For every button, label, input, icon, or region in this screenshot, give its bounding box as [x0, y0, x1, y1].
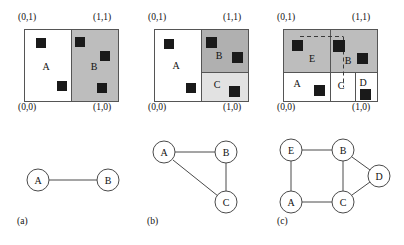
- coord-top-right-a: (1,1): [93, 12, 111, 22]
- region-label-c: C: [338, 80, 345, 91]
- unit-square-a: A B: [24, 29, 120, 103]
- region-label-a: A: [172, 60, 180, 71]
- graph-node-b-label: B: [223, 147, 230, 158]
- panel-caption-a: (a): [17, 216, 28, 226]
- data-point: [360, 89, 371, 100]
- region-label-b: B: [345, 55, 352, 66]
- coord-bottom-right-b: (1,0): [223, 102, 241, 112]
- region-label-b: B: [216, 50, 223, 61]
- unit-square-c: E B A C D: [283, 29, 379, 103]
- data-point: [186, 83, 196, 93]
- graph-edge-a-c: [173, 160, 218, 196]
- data-point: [314, 85, 325, 96]
- region-label-a: A: [42, 61, 50, 72]
- region-label-d: D: [359, 77, 366, 88]
- figure-root: (0,1) (1,1) (0,0) (1,0) A B A B (a) (: [0, 0, 404, 245]
- data-point: [232, 52, 243, 63]
- region-label-e: E: [309, 53, 315, 64]
- graph-node-a-label: A: [34, 175, 42, 186]
- coord-bottom-left-a: (0,0): [18, 102, 36, 112]
- data-point: [36, 38, 46, 48]
- data-point: [164, 39, 174, 49]
- graph-node-a-label: A: [160, 147, 168, 158]
- graph-node-b-label: B: [105, 175, 112, 186]
- panel-caption-c: (c): [277, 216, 288, 226]
- data-point: [97, 83, 107, 93]
- data-point: [57, 81, 67, 91]
- coord-top-left-b: (0,1): [148, 12, 166, 22]
- graph-b: A B C: [140, 136, 270, 216]
- coord-top-right-c: (1,1): [352, 12, 370, 22]
- data-point: [229, 86, 240, 97]
- region-label-a: A: [293, 78, 301, 89]
- panel-caption-b: (b): [147, 216, 158, 226]
- data-point: [357, 53, 368, 64]
- coord-bottom-left-c: (0,0): [277, 102, 295, 112]
- region-label-c: C: [214, 79, 221, 90]
- graph-node-c-label: C: [223, 197, 230, 208]
- graph-node-e-label: E: [288, 145, 294, 156]
- region-label-b: B: [91, 61, 98, 72]
- data-point: [333, 40, 345, 52]
- graph-edge-c-d: [352, 182, 370, 195]
- region-b-fill: [202, 30, 249, 73]
- graph-edge-b-d: [352, 157, 370, 170]
- data-point: [100, 51, 110, 61]
- coord-top-left-a: (0,1): [18, 12, 36, 22]
- region-e-fill: [284, 30, 331, 73]
- coord-bottom-right-c: (1,0): [352, 102, 370, 112]
- data-point: [292, 40, 303, 51]
- coord-top-right-b: (1,1): [223, 12, 241, 22]
- region-c-fill: [202, 73, 249, 102]
- graph-node-a-label: A: [287, 197, 295, 208]
- coord-bottom-left-b: (0,0): [148, 102, 166, 112]
- graph-node-c-label: C: [340, 197, 347, 208]
- graph-c: E B D A C: [266, 136, 404, 216]
- graph-node-b-label: B: [340, 145, 347, 156]
- graph-node-d-label: D: [375, 171, 382, 182]
- data-point: [206, 37, 217, 48]
- coord-top-left-c: (0,1): [277, 12, 295, 22]
- coord-bottom-right-a: (1,0): [93, 102, 111, 112]
- data-point: [75, 37, 85, 47]
- unit-square-b: A B C: [154, 29, 250, 103]
- graph-a: A B: [10, 150, 140, 210]
